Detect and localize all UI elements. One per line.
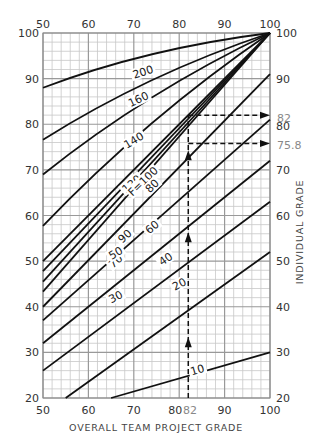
x-axis-title: OVERALL TEAM PROJECT GRADE xyxy=(69,422,243,433)
grade-nomograph-chart: 200160140120F=100908070605040302010 5050… xyxy=(0,0,320,446)
left-tick-label: 100 xyxy=(18,27,39,40)
arrow-head-icon xyxy=(260,140,270,147)
right-tick-label: 50 xyxy=(276,255,290,268)
top-tick-label: 90 xyxy=(218,18,232,31)
curve-f-80 xyxy=(43,33,270,282)
f-curve-labels: 200160140120F=100908070605040302010 xyxy=(105,62,208,378)
left-tick-label: 50 xyxy=(25,255,39,268)
bottom-tick-label: 70 xyxy=(127,404,141,417)
right-tick-label: 90 xyxy=(276,73,290,86)
right-tick-label: 40 xyxy=(276,301,290,314)
left-tick-label: 20 xyxy=(25,392,39,405)
right-tick-label: 70 xyxy=(276,164,290,177)
arrow-head-icon xyxy=(260,112,270,119)
right-tick-label: 30 xyxy=(276,346,290,359)
curve-label: 40 xyxy=(156,250,175,269)
y-axis-title-right: INDIVIDUAL GRADE xyxy=(294,180,305,285)
bottom-tick-label: 50 xyxy=(36,404,50,417)
bottom-tick-label: 80 xyxy=(168,404,182,417)
right-marker-75-8: 75.8 xyxy=(277,139,302,152)
right-tick-label: 60 xyxy=(276,210,290,223)
top-tick-label: 70 xyxy=(127,18,141,31)
right-marker-82: 82 xyxy=(277,112,291,125)
top-tick-label: 80 xyxy=(172,18,186,31)
curve-f-90 xyxy=(43,33,270,271)
left-tick-label: 30 xyxy=(25,346,39,359)
bottom-tick-label: 100 xyxy=(260,404,281,417)
left-tick-label: 70 xyxy=(25,164,39,177)
left-tick-label: 90 xyxy=(25,73,39,86)
bottom-tick-label: 60 xyxy=(81,404,95,417)
top-tick-label: 60 xyxy=(81,18,95,31)
x-marker-82: 82 xyxy=(183,404,197,417)
right-tick-label: 20 xyxy=(276,392,290,405)
left-tick-label: 80 xyxy=(25,118,39,131)
left-tick-label: 60 xyxy=(25,210,39,223)
right-tick-label: 100 xyxy=(276,27,297,40)
left-tick-label: 40 xyxy=(25,301,39,314)
bottom-tick-label: 90 xyxy=(218,404,232,417)
arrow-head-icon xyxy=(185,337,192,347)
